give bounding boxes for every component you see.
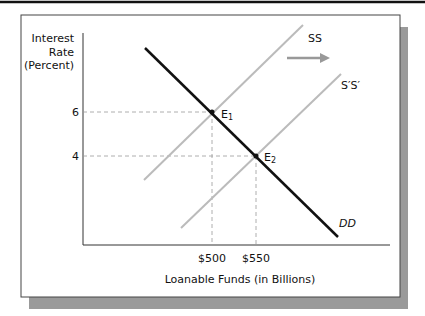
y-axis-label-line2: Rate — [49, 46, 74, 59]
label-dd: DD — [339, 217, 356, 230]
x-axis-label: Loanable Funds (in Billions) — [165, 273, 316, 286]
x-tick-550: $550 — [242, 252, 270, 265]
y-axis-label-line1: Interest — [32, 32, 75, 45]
equilibrium-point-e2 — [254, 154, 259, 159]
label-ss: SS — [308, 32, 322, 45]
y-axis-label-line3: (Percent) — [24, 59, 74, 72]
x-tick-500: $500 — [198, 252, 226, 265]
y-tick-4: 4 — [72, 150, 79, 163]
loanable-funds-chart: Interest Rate (Percent) 6 4 $500 $550 Lo… — [0, 0, 425, 316]
label-s2s2: S′S′ — [341, 79, 360, 92]
y-tick-6: 6 — [72, 106, 79, 119]
equilibrium-point-e1 — [210, 110, 215, 115]
